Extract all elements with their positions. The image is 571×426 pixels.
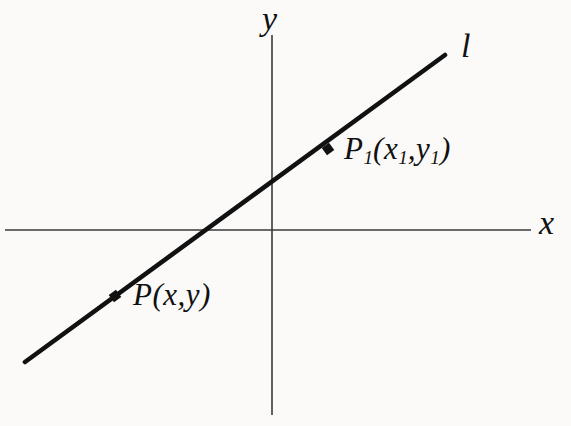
point-label-p-paren-open: (: [152, 277, 163, 312]
line-l: [25, 55, 445, 362]
point-label-p-arg2: y: [186, 277, 200, 312]
y-axis-label: y: [262, 2, 278, 36]
x-axis-label: x: [539, 206, 555, 240]
point-label-p-comma: ,: [178, 277, 186, 312]
point-label-p1-subscript: 1: [363, 147, 373, 168]
point-label-p-arg1: x: [163, 277, 177, 312]
point-label-p1-comma: ,: [408, 131, 416, 166]
point-label-p1-paren-open: (: [373, 131, 384, 166]
point-label-p-paren-close: ): [200, 277, 211, 312]
point-label-p1-arg2-subscript: 1: [430, 147, 440, 168]
point-label-p1-arg1: x: [384, 131, 398, 166]
point-label-p: P(x,y): [133, 279, 211, 310]
point-label-p1-name: P: [344, 131, 363, 166]
point-label-p1-arg1-subscript: 1: [398, 147, 408, 168]
geometry-figure: y x l P(x,y) P1(x1,y1): [0, 0, 571, 426]
point-label-p1-paren-close: ): [440, 131, 451, 166]
point-label-p1: P1(x1,y1): [344, 133, 451, 168]
point-label-p1-arg2: y: [416, 131, 430, 166]
point-label-p-name: P: [133, 277, 152, 312]
coordinate-plane-drawing: [0, 0, 571, 426]
line-label-l: l: [461, 29, 471, 63]
